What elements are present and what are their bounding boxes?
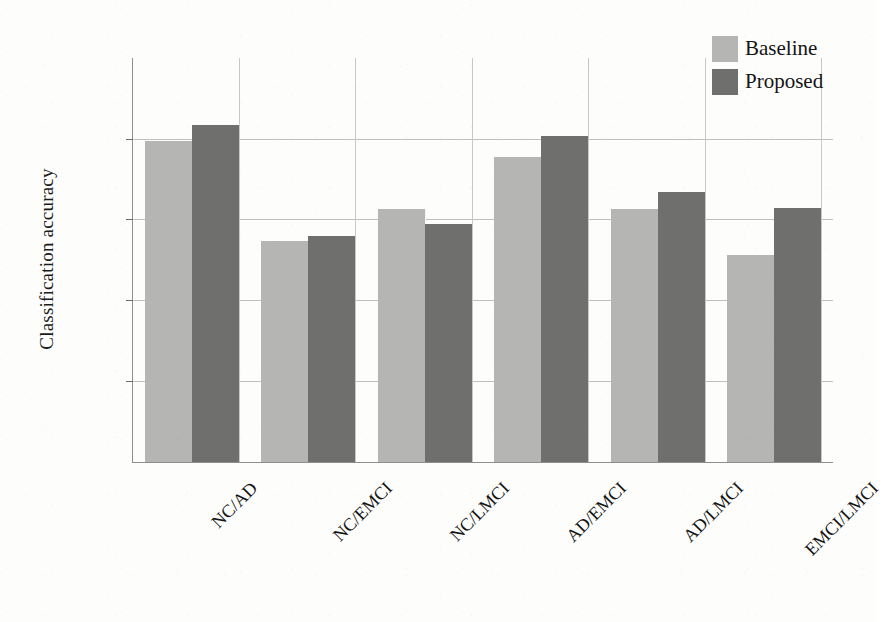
bar-proposed-nc-emci [308, 236, 355, 462]
bar-proposed-emci-lmci [774, 208, 821, 462]
legend-label-proposed: Proposed [745, 69, 823, 94]
bar-baseline-nc-lmci [378, 209, 426, 462]
x-tick-label-ad-lmci: AD/LMCI [679, 478, 748, 547]
legend-item-proposed: Proposed [712, 65, 862, 98]
bar-baseline-ad-emci [494, 157, 542, 462]
x-tick-label-nc-ad: NC/AD [207, 478, 261, 532]
vertical-gridline-3 [472, 58, 473, 462]
bar-baseline-ad-lmci [611, 209, 659, 462]
y-axis-title: Classification accuracy [36, 94, 58, 424]
bar-proposed-ad-lmci [658, 192, 705, 462]
x-tick-label-nc-emci: NC/EMCI [329, 478, 397, 546]
vertical-gridline-2 [355, 58, 356, 462]
legend-label-baseline: Baseline [745, 36, 817, 61]
legend-item-baseline: Baseline [712, 32, 862, 65]
bar-baseline-emci-lmci [727, 255, 775, 462]
x-tick-label-nc-lmci: NC/LMCI [446, 478, 514, 546]
legend-swatch-baseline-icon [712, 36, 738, 62]
plot-area [133, 58, 833, 462]
legend-swatch-proposed-icon [712, 69, 738, 95]
vertical-gridline-5 [705, 58, 706, 462]
x-tick-label-ad-emci: AD/EMCI [562, 478, 631, 547]
bar-proposed-nc-ad [192, 125, 239, 462]
bar-baseline-nc-emci [261, 241, 309, 462]
vertical-gridline-4 [588, 58, 589, 462]
vertical-gridline-6 [821, 58, 822, 462]
legend: Baseline Proposed [712, 32, 862, 98]
bar-proposed-ad-emci [541, 136, 588, 462]
bar-baseline-nc-ad [145, 141, 193, 462]
bar-proposed-nc-lmci [425, 224, 472, 462]
x-axis-line [132, 462, 833, 463]
vertical-gridline-1 [239, 58, 240, 462]
x-tick-label-emci-lmci: EMCI/LMCI [801, 478, 883, 560]
